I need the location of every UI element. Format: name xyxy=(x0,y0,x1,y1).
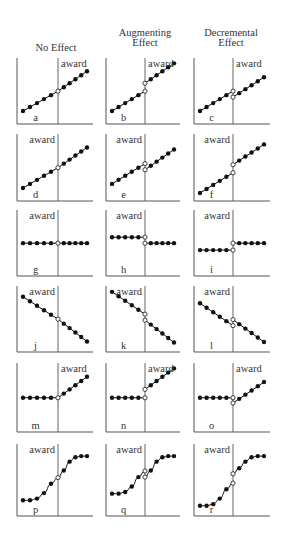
award-label: award xyxy=(116,444,142,455)
award-label: award xyxy=(236,363,262,374)
panel-a: awarda xyxy=(17,58,93,124)
data-point xyxy=(166,454,170,458)
data-point xyxy=(211,310,215,314)
panel-o: awardo xyxy=(194,363,270,432)
data-point xyxy=(73,455,77,459)
data-point xyxy=(243,241,247,245)
open-point xyxy=(56,317,60,321)
data-point xyxy=(62,321,66,325)
data-point xyxy=(249,455,253,459)
post-award-line xyxy=(145,456,174,477)
data-point xyxy=(149,77,153,81)
open-point xyxy=(231,324,235,328)
panel-p: awardp xyxy=(17,444,93,516)
panel-letter: d xyxy=(33,189,39,200)
panel-letter: r xyxy=(210,504,214,515)
data-point xyxy=(130,303,134,307)
data-point xyxy=(73,383,77,387)
data-point xyxy=(256,335,260,339)
panel-letter: j xyxy=(33,340,37,351)
data-point xyxy=(67,81,71,85)
data-point xyxy=(130,235,134,239)
data-point xyxy=(110,290,114,294)
data-point xyxy=(116,235,120,239)
data-point xyxy=(160,455,164,459)
data-point xyxy=(73,77,77,81)
data-point xyxy=(130,97,134,101)
data-point xyxy=(35,178,39,182)
data-point xyxy=(224,175,228,179)
data-point xyxy=(249,241,253,245)
data-point xyxy=(21,295,25,299)
award-label: award xyxy=(204,134,230,145)
data-point xyxy=(256,384,260,388)
data-point xyxy=(79,73,83,77)
data-point xyxy=(28,241,32,245)
data-point xyxy=(123,299,127,303)
open-point xyxy=(231,396,235,400)
data-point xyxy=(110,491,114,495)
panel-l: awardl xyxy=(194,286,270,352)
data-point xyxy=(79,149,83,153)
data-point xyxy=(218,496,222,500)
data-point xyxy=(237,397,241,401)
pre-award-line xyxy=(23,478,58,501)
panel-i: awardi xyxy=(194,210,270,276)
data-point xyxy=(154,73,158,77)
post-award-line xyxy=(233,456,264,474)
data-point xyxy=(256,241,260,245)
data-point xyxy=(110,109,114,113)
data-point xyxy=(116,491,120,495)
data-point xyxy=(110,235,114,239)
open-point xyxy=(143,241,147,245)
data-point xyxy=(67,326,71,330)
panel-j: awardj xyxy=(17,286,93,352)
data-point xyxy=(243,154,247,158)
open-point xyxy=(56,476,60,480)
panel-b: awardb xyxy=(106,58,180,124)
award-label: award xyxy=(29,210,55,221)
panel-letter: c xyxy=(209,112,214,123)
data-point xyxy=(198,504,202,508)
data-point xyxy=(256,146,260,150)
data-point xyxy=(42,241,46,245)
data-point xyxy=(204,248,208,252)
data-point xyxy=(166,336,170,340)
data-point xyxy=(42,308,46,312)
data-point xyxy=(49,482,53,486)
data-point xyxy=(224,487,228,491)
data-point xyxy=(123,174,127,178)
panel-letter: g xyxy=(33,264,39,275)
data-point xyxy=(198,191,202,195)
open-point xyxy=(231,401,235,405)
open-point xyxy=(231,472,235,476)
data-point xyxy=(28,498,32,502)
data-point xyxy=(79,379,83,383)
open-point xyxy=(231,241,235,245)
data-point xyxy=(211,101,215,105)
data-point xyxy=(249,83,253,87)
data-point xyxy=(21,109,25,113)
data-point xyxy=(85,375,89,379)
data-point xyxy=(224,93,228,97)
panel-letter: q xyxy=(121,504,127,515)
data-point xyxy=(160,155,164,159)
data-point xyxy=(224,396,228,400)
data-point xyxy=(136,235,140,239)
data-point xyxy=(198,301,202,305)
post-award-line xyxy=(58,456,87,478)
data-point xyxy=(262,454,266,458)
panel-k: awardk xyxy=(106,286,180,352)
panel-letter: b xyxy=(121,112,126,123)
award-label: award xyxy=(29,286,55,297)
data-point xyxy=(256,79,260,83)
data-point xyxy=(256,454,260,458)
data-point xyxy=(198,248,202,252)
data-point xyxy=(85,241,89,245)
panel-letter: l xyxy=(210,340,213,351)
pre-award-line xyxy=(200,483,233,506)
award-label: award xyxy=(204,444,230,455)
data-point xyxy=(123,490,127,494)
data-point xyxy=(110,182,114,186)
data-point xyxy=(218,396,222,400)
